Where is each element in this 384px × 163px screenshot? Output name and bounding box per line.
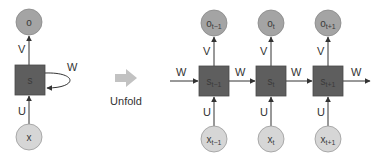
recurrent-label-out: W (351, 66, 362, 78)
unfold-arrow: Unfold (110, 69, 142, 107)
edge-label-v: V (18, 43, 26, 55)
edge-label-w: W (67, 61, 78, 73)
output-node-label: o (26, 17, 32, 28)
state-node-label: s (28, 75, 33, 86)
edge-label-u: U (203, 106, 211, 118)
edge-label-v: V (317, 45, 325, 57)
time-step-t-minus-1: V U ot−1 st−1 xt−1 (199, 10, 229, 152)
unfold-label: Unfold (110, 95, 142, 107)
edge-label-u: U (260, 106, 268, 118)
rnn-diagram: V U W o s x Unfold W W W W V U ot−1 (0, 0, 384, 163)
time-step-t-plus-1: V U ot+1 st+1 xt+1 (313, 10, 343, 152)
edge-label-v: V (203, 45, 211, 57)
unfold-arrow-icon (115, 69, 137, 87)
folded-rnn: V U W o s x (15, 9, 78, 150)
recurrent-label-1: W (235, 66, 246, 78)
recurrent-label-in: W (176, 66, 187, 78)
unfolded-rnn: W W W W V U ot−1 st−1 xt−1 V U ot st (170, 10, 370, 152)
input-node-label: x (27, 132, 32, 143)
edge-label-u: U (317, 106, 325, 118)
recurrent-label-2: W (291, 66, 302, 78)
time-step-t: V U ot st xt (256, 10, 286, 152)
edge-label-v: V (260, 45, 268, 57)
recurrent-loop-edge (45, 73, 70, 88)
edge-label-u: U (18, 105, 26, 117)
